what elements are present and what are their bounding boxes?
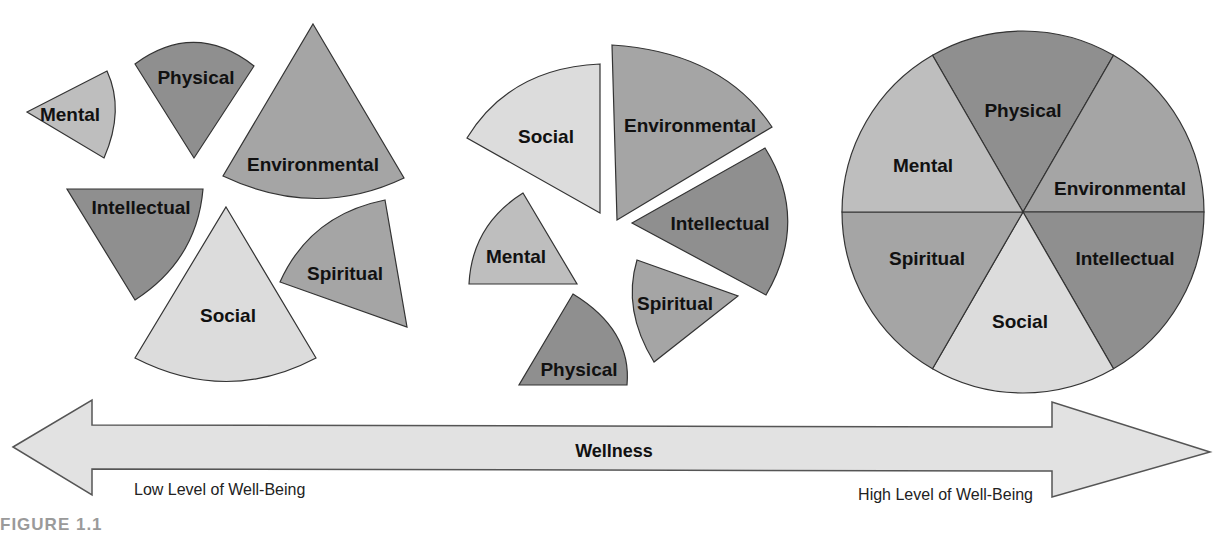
label-mental-whole: Mental xyxy=(893,155,953,176)
label-social-partial: Social xyxy=(518,126,574,147)
whole-pie: Physical Mental Environmental Spiritual … xyxy=(842,31,1204,393)
wellness-arrow: Wellness Low Level of Well-Being High Le… xyxy=(13,400,1210,503)
label-social-whole: Social xyxy=(992,311,1048,332)
label-physical-whole: Physical xyxy=(984,100,1061,121)
slice-physical-scattered xyxy=(135,42,254,158)
label-environmental-whole: Environmental xyxy=(1054,178,1186,199)
label-mental-partial: Mental xyxy=(486,246,546,267)
label-mental-scattered: Mental xyxy=(40,104,100,125)
slice-mental-partial xyxy=(469,193,577,284)
label-spiritual-whole: Spiritual xyxy=(889,248,965,269)
label-environmental-partial: Environmental xyxy=(624,115,756,136)
label-physical-scattered: Physical xyxy=(157,67,234,88)
label-social-scattered: Social xyxy=(200,305,256,326)
low-wellbeing-label: Low Level of Well-Being xyxy=(134,481,305,498)
label-spiritual-scattered: Spiritual xyxy=(307,263,383,284)
scattered-pie: Mental Physical Environmental Intellectu… xyxy=(27,24,407,382)
label-intellectual-partial: Intellectual xyxy=(670,213,769,234)
label-intellectual-whole: Intellectual xyxy=(1075,248,1174,269)
label-environmental-scattered: Environmental xyxy=(247,154,379,175)
label-spiritual-partial: Spiritual xyxy=(637,293,713,314)
label-intellectual-scattered: Intellectual xyxy=(91,197,190,218)
wellness-figure: Mental Physical Environmental Intellectu… xyxy=(0,0,1223,536)
high-wellbeing-label: High Level of Well-Being xyxy=(858,486,1033,503)
wellness-title: Wellness xyxy=(575,441,653,461)
figure-label: FIGURE 1.1 xyxy=(0,515,103,534)
partial-pie: Social Environmental Intellectual Mental… xyxy=(467,45,788,385)
label-physical-partial: Physical xyxy=(540,359,617,380)
